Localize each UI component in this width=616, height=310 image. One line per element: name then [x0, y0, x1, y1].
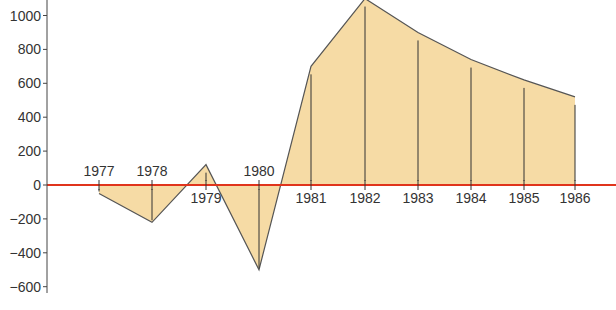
plot-area [47, 0, 616, 270]
y-tick-label: 1000 [10, 8, 41, 24]
x-tick-label: 1979 [190, 190, 221, 206]
area-chart: 10008006004002000−200−400−600 1977197819… [0, 0, 616, 310]
y-axis: 10008006004002000−200−400−600 [9, 0, 47, 295]
x-tick-label: 1980 [243, 163, 274, 179]
y-tick-label: −600 [9, 279, 41, 295]
y-tick-label: 600 [18, 75, 42, 91]
x-tick-label: 1977 [83, 163, 114, 179]
area-fill [99, 0, 575, 270]
y-tick-label: 800 [18, 41, 42, 57]
x-tick-label: 1978 [136, 163, 167, 179]
x-tick-label: 1983 [402, 190, 433, 206]
y-tick-label: −200 [9, 211, 41, 227]
y-tick-label: 0 [33, 177, 41, 193]
x-tick-label: 1982 [349, 190, 380, 206]
x-tick-label: 1985 [508, 190, 539, 206]
x-tick-label: 1986 [559, 190, 590, 206]
y-tick-label: 200 [18, 143, 42, 159]
x-tick-label: 1981 [295, 190, 326, 206]
y-tick-label: 400 [18, 109, 42, 125]
y-tick-label: −400 [9, 245, 41, 261]
x-tick-label: 1984 [455, 190, 486, 206]
